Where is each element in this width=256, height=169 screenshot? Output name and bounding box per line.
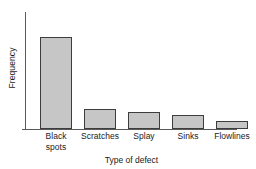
bar-group-black-spots: [40, 12, 72, 129]
x-tick-labels: Black spots Scratches Splay Sinks Flowli…: [26, 131, 237, 157]
bar-scratches: [84, 109, 116, 129]
bar-chart-figure: Frequency Black spots Scratches Splay Si…: [0, 0, 256, 169]
bar-group-scratches: [84, 12, 116, 129]
x-tick-label-sinks: Sinks: [164, 131, 212, 142]
bar-group-flowlines: [216, 12, 248, 129]
x-tick-label-black-spots: Black spots: [32, 131, 80, 152]
bar-splay: [128, 112, 160, 129]
bar-sinks: [172, 115, 204, 129]
y-axis-label: Frequency: [7, 28, 17, 108]
x-tick-label-scratches: Scratches: [76, 131, 124, 142]
bar-group-splay: [128, 12, 160, 129]
bar-flowlines: [216, 121, 248, 129]
x-tick-label-flowlines: Flowlines: [208, 131, 256, 142]
x-tick-label-splay: Splay: [120, 131, 168, 142]
plot-area: [26, 12, 237, 129]
x-axis-label: Type of defect: [26, 155, 237, 165]
bar-black-spots: [40, 37, 72, 129]
bar-group-sinks: [172, 12, 204, 129]
